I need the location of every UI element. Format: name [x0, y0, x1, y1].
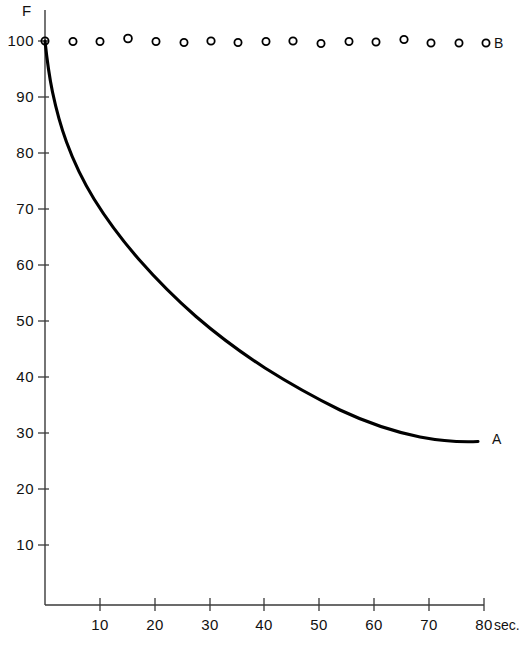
- x-tick-label-60: 60: [354, 616, 394, 633]
- series-b-point: [400, 36, 407, 43]
- y-tick-label-40: 40: [0, 368, 34, 385]
- series-b-point: [207, 37, 214, 44]
- y-axis-name: F: [22, 2, 31, 19]
- series-b-point: [317, 40, 324, 47]
- y-tick-label-70: 70: [0, 200, 34, 217]
- series-b-label: B: [494, 35, 503, 51]
- axis-lines: [45, 10, 484, 605]
- chart-container: F 100 90 80 70 60 50 40 30 20 10 10 20 3…: [0, 0, 526, 648]
- x-tick-label-10: 10: [80, 616, 120, 633]
- y-tick-label-100: 100: [0, 32, 34, 49]
- series-a-line: [45, 41, 478, 442]
- series-b-point: [180, 39, 187, 46]
- x-tick-label-30: 30: [190, 616, 230, 633]
- x-tick-label-70: 70: [409, 616, 449, 633]
- series-b-point: [482, 39, 489, 46]
- series-b-point: [69, 38, 76, 45]
- series-b-point: [345, 38, 352, 45]
- series-b-point: [124, 35, 132, 43]
- y-tick-label-90: 90: [0, 88, 34, 105]
- y-tick-label-80: 80: [0, 144, 34, 161]
- plot-area: [0, 0, 526, 648]
- series-a-label: A: [492, 431, 501, 447]
- series-a-curve: [45, 41, 478, 461]
- y-tick-label-10: 10: [0, 536, 34, 553]
- series-b-point: [455, 39, 462, 46]
- series-b-point: [372, 38, 379, 45]
- series-b-point: [234, 39, 241, 46]
- y-tick-label-20: 20: [0, 480, 34, 497]
- y-axis-ticks: [38, 41, 49, 545]
- y-tick-label-60: 60: [0, 256, 34, 273]
- series-b-markers: [41, 35, 489, 48]
- y-tick-label-30: 30: [0, 424, 34, 441]
- y-tick-label-50: 50: [0, 312, 34, 329]
- series-b-point: [96, 38, 103, 45]
- x-tick-label-40: 40: [244, 616, 284, 633]
- x-tick-label-50: 50: [299, 616, 339, 633]
- x-axis-unit-label: sec.: [494, 617, 520, 633]
- x-tick-label-20: 20: [135, 616, 175, 633]
- series-b-point: [152, 38, 159, 45]
- series-b-point: [262, 38, 269, 45]
- series-b-point: [289, 37, 296, 44]
- series-b-point: [427, 39, 434, 46]
